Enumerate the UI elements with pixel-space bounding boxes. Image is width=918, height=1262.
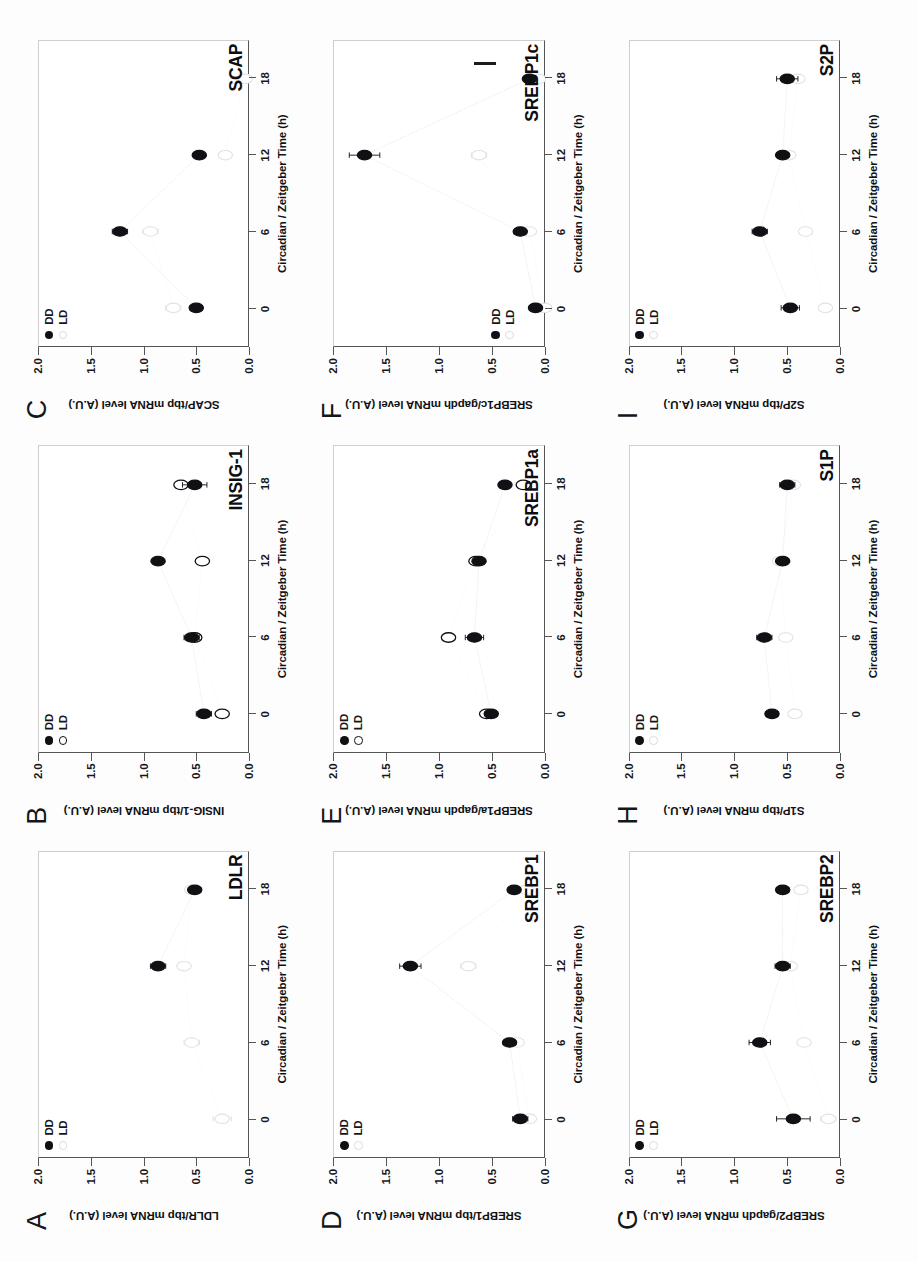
x-tick-label-F: 6: [555, 229, 567, 235]
series-dd-H: [756, 480, 794, 718]
x-tick-D: [545, 965, 552, 966]
plot-area-H: S1P/tbp mRNA level (A.U.)2.01.51.00.50.0…: [629, 445, 840, 752]
series-layer-E: [334, 446, 639, 751]
x-tick-B: [249, 483, 256, 484]
x-axis-title-E: Circadian / Zeitgeber Time (h): [572, 520, 584, 678]
gene-label-G: SREBP2: [817, 855, 838, 923]
y-tick-H: [629, 753, 630, 761]
y-axis-title-H: S1P/tbp mRNA level (A.U.): [664, 805, 805, 817]
x-tick-label-D: 18: [555, 883, 567, 896]
y-tick-label-F: 0.5: [486, 358, 498, 373]
y-tick-F: [439, 347, 440, 355]
axes-box-A: [38, 851, 249, 1158]
gene-label-D: SREBP1: [522, 855, 543, 923]
y-tick-I: [734, 347, 735, 355]
legend-label-ld-B: LD: [57, 715, 69, 730]
panel-B: BINSIG-1/tbp mRNA level (A.U.)2.01.51.00…: [22, 431, 313, 826]
y-tick-label-D: 1.0: [433, 1169, 445, 1184]
data-point: [151, 961, 165, 970]
legend-C: DDLD: [42, 309, 70, 340]
x-tick-I: [840, 308, 847, 309]
y-tick-I: [840, 347, 841, 355]
x-tick-label-B: 6: [259, 634, 271, 640]
plot-area-G: SREBP2/gapdh mRNA level (A.U.)2.01.51.00…: [629, 851, 840, 1158]
x-tick-label-F: 18: [555, 72, 567, 85]
legend-row-dd-E: DD: [337, 714, 351, 745]
panel-grid: ALDLR/tbp mRNA level (A.U.)2.01.51.00.50…: [0, 0, 918, 1262]
series-dd-C: [112, 151, 206, 313]
x-tick-E: [545, 483, 552, 484]
legend-label-dd-I: DD: [634, 309, 646, 325]
x-axis-title-D: Circadian / Zeitgeber Time (h): [572, 925, 584, 1083]
y-tick-C: [196, 347, 197, 355]
x-tick-A: [249, 1119, 256, 1120]
gene-label-F: SREBP1c: [522, 44, 543, 122]
data-point: [197, 709, 211, 718]
plot-area-B: INSIG-1/tbp mRNA level (A.U.)2.01.51.00.…: [38, 445, 249, 752]
y-tick-label-A: 0.0: [243, 1169, 255, 1184]
x-axis-title-F: Circadian / Zeitgeber Time (h): [572, 114, 584, 272]
legend-marker-dd-F: [491, 331, 500, 340]
y-tick-label-E: 2.0: [327, 764, 339, 779]
panel-F: FSREBP1c/gapdh mRNA level (A.U.)2.01.51.…: [317, 26, 608, 421]
series-layer-D: [334, 852, 639, 1157]
x-tick-label-G: 12: [850, 960, 862, 973]
y-tick-label-G: 1.0: [728, 1169, 740, 1184]
panel-E: ESREBP1a/gapdh mRNA level (A.U.)2.01.51.…: [317, 431, 608, 826]
data-point: [166, 303, 180, 312]
axes-box-D: [333, 851, 544, 1158]
data-point: [503, 1038, 517, 1047]
y-tick-label-C: 1.0: [138, 358, 150, 373]
x-axis-title-H: Circadian / Zeitgeber Time (h): [867, 520, 879, 678]
x-tick-label-A: 0: [259, 1116, 271, 1122]
series-dd-I: [752, 74, 799, 312]
y-tick-B: [196, 753, 197, 761]
legend-row-ld-G: LD: [647, 1119, 661, 1150]
legend-row-dd-I: DD: [633, 309, 647, 340]
series-dd-B: [151, 480, 212, 718]
y-tick-A: [196, 1158, 197, 1166]
gene-label-B: INSIG-1: [226, 449, 247, 510]
x-tick-label-A: 18: [259, 883, 271, 896]
y-tick-label-I: 0.0: [834, 358, 846, 373]
data-point: [461, 961, 475, 970]
legend-marker-ld-H: [649, 736, 658, 745]
data-point: [151, 556, 165, 565]
legend-row-ld-H: LD: [647, 714, 661, 745]
y-axis-title-A: LDLR/tbp mRNA level (A.U.): [69, 1210, 219, 1222]
x-tick-label-A: 12: [259, 960, 271, 973]
data-point: [775, 961, 789, 970]
x-tick-label-G: 18: [850, 883, 862, 896]
y-tick-A: [249, 1158, 250, 1166]
y-tick-G: [787, 1158, 788, 1166]
gene-label-E: SREBP1a: [522, 449, 543, 527]
data-point: [787, 709, 801, 718]
x-tick-label-I: 18: [850, 72, 862, 85]
y-tick-F: [492, 347, 493, 355]
legend-label-ld-H: LD: [648, 715, 660, 730]
y-tick-label-F: 1.5: [380, 358, 392, 373]
data-point: [358, 151, 372, 160]
series-dd-A: [150, 885, 201, 971]
x-tick-label-H: 12: [850, 554, 862, 567]
panel-letter-D: D: [319, 1211, 346, 1231]
data-point: [752, 1038, 766, 1047]
y-tick-label-I: 2.0: [623, 358, 635, 373]
x-tick-H: [840, 713, 847, 714]
y-tick-label-H: 2.0: [623, 764, 635, 779]
axes-box-H: [629, 445, 840, 752]
data-point: [757, 632, 771, 641]
x-tick-B: [249, 560, 256, 561]
y-tick-C: [249, 347, 250, 355]
legend-label-dd-D: DD: [338, 1119, 350, 1135]
x-tick-A: [249, 888, 256, 889]
data-point: [780, 480, 794, 489]
legend-B: DDLD: [42, 714, 70, 745]
y-tick-D: [439, 1158, 440, 1166]
data-point: [113, 227, 127, 236]
y-tick-label-I: 1.5: [675, 358, 687, 373]
x-axis-title-A: Circadian / Zeitgeber Time (h): [276, 925, 288, 1083]
x-tick-label-C: 12: [259, 149, 271, 162]
y-tick-E: [545, 753, 546, 761]
figure-rotated-container: ALDLR/tbp mRNA level (A.U.)2.01.51.00.50…: [0, 0, 918, 1262]
